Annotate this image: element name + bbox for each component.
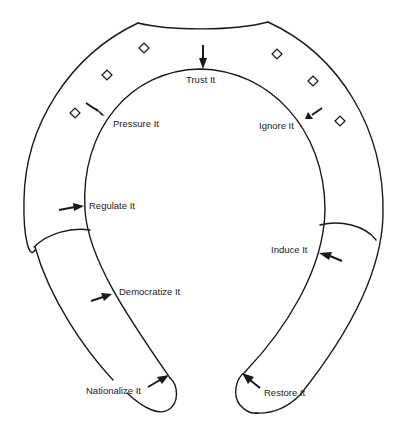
arrow-regulate-icon	[59, 203, 84, 211]
label-restore-it: Restore It	[264, 388, 305, 398]
arrow-trust-icon	[199, 45, 207, 69]
left-band-divider	[34, 229, 90, 247]
arrow-ignore-icon	[305, 108, 322, 119]
diamond-icon	[70, 108, 80, 118]
outer-right-edge	[255, 22, 383, 413]
arrow-nationalize-icon	[148, 375, 169, 387]
arrow-induce-icon	[319, 252, 342, 261]
arrow-restore-icon	[242, 373, 260, 388]
horseshoe-diagram	[0, 0, 400, 437]
label-pressure-it: Pressure It	[113, 119, 159, 129]
diamond-icon	[272, 49, 282, 59]
outer-top-edge	[138, 22, 268, 29]
label-ignore-it: Ignore It	[259, 121, 294, 131]
label-regulate-it: Regulate It	[89, 201, 135, 211]
right-band-divider	[320, 223, 376, 240]
label-nationalize-it: Nationalize It	[86, 386, 141, 396]
arrow-pressure-icon	[86, 103, 105, 116]
diamond-icon	[308, 76, 318, 86]
label-induce-it: Induce It	[271, 245, 307, 255]
arrow-democratize-icon	[91, 293, 112, 301]
inner-arch	[85, 69, 325, 378]
arrows	[59, 45, 342, 388]
diamond-icon	[335, 116, 345, 126]
label-democratize-it: Democratize It	[119, 287, 180, 297]
diamond-icon	[102, 70, 112, 80]
diamond-icon	[139, 43, 149, 53]
label-trust-it: Trust It	[186, 75, 215, 85]
